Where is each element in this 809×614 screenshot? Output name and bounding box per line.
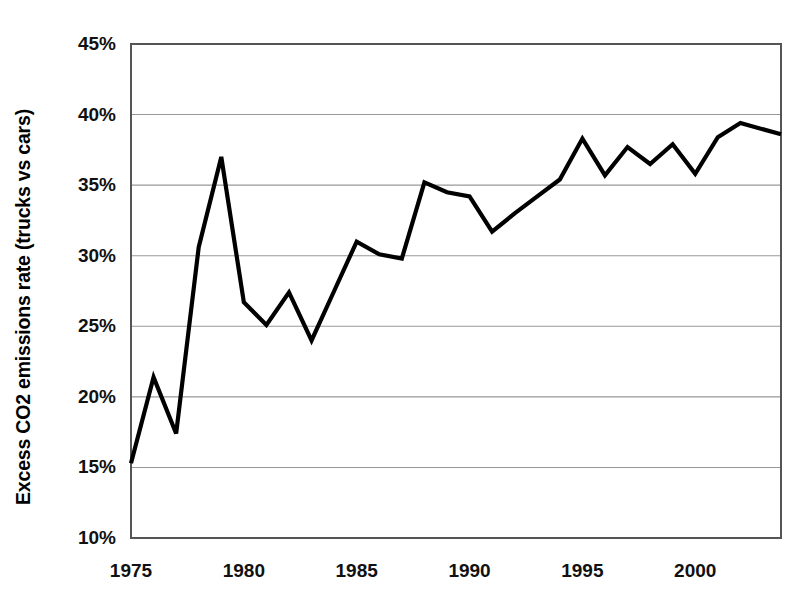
x-tick-label-1995: 1995 xyxy=(561,560,603,582)
line-chart-svg xyxy=(0,0,809,614)
y-tick-label-25%: 25% xyxy=(40,315,116,337)
x-tick-label-1975: 1975 xyxy=(110,560,152,582)
x-tick-label-1990: 1990 xyxy=(448,560,490,582)
x-tick-label-1980: 1980 xyxy=(223,560,265,582)
plot-frame xyxy=(131,44,781,538)
series-line-excess-co2 xyxy=(131,123,781,463)
y-tick-label-10%: 10% xyxy=(40,527,116,549)
x-tick-label-2000: 2000 xyxy=(674,560,716,582)
plot-border xyxy=(131,44,781,538)
y-tick-label-30%: 30% xyxy=(40,245,116,267)
gridlines xyxy=(131,115,781,468)
y-tick-label-15%: 15% xyxy=(40,456,116,478)
y-tick-label-20%: 20% xyxy=(40,386,116,408)
plot-area: 45%40%35%30%25%20%15%10% 197519801985199… xyxy=(0,0,809,614)
data-series xyxy=(131,123,781,463)
y-tick-label-35%: 35% xyxy=(40,174,116,196)
chart-container: Excess CO2 emissions rate (trucks vs car… xyxy=(0,0,809,614)
x-tick-label-1985: 1985 xyxy=(336,560,378,582)
y-tick-label-40%: 40% xyxy=(40,104,116,126)
y-tick-label-45%: 45% xyxy=(40,33,116,55)
